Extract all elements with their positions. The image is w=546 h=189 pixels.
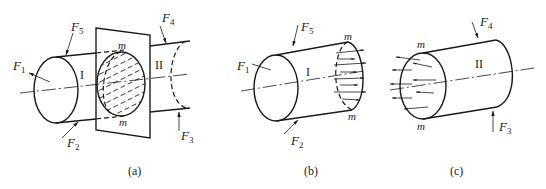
label-f4: F4 (161, 10, 175, 27)
label-f3: F3 (180, 128, 194, 145)
label-f2: F2 (290, 133, 303, 150)
force-arrow-f5 (293, 25, 298, 46)
panel-b: F1 F5 F2 m m I (b) (236, 19, 366, 178)
force-arrow-f2 (284, 120, 298, 134)
caption-b: (b) (304, 164, 318, 178)
cylinder-right-end (496, 40, 512, 107)
cylinder-left-end (254, 55, 298, 121)
label-f3: F3 (498, 119, 512, 136)
label-f5: F5 (70, 19, 84, 36)
force-arrow-f4 (160, 26, 166, 43)
section-surface (97, 52, 145, 116)
caption-a: (a) (128, 164, 141, 178)
section-label-top: m (417, 38, 425, 50)
internal-force-arrows (390, 57, 436, 109)
section-label-top: m (344, 30, 352, 42)
part-label-i: I (80, 68, 84, 82)
bar-axis (20, 74, 190, 93)
force-arrow-f1 (29, 73, 50, 82)
cylinder-left-end (34, 57, 78, 123)
section-label-top: m (118, 39, 126, 51)
label-f5: F5 (300, 19, 314, 36)
caption-c: (c) (450, 164, 463, 178)
section-label-bottom: m (348, 110, 356, 122)
bar-axis (241, 71, 364, 91)
section-label-bottom: m (417, 120, 425, 132)
section-label-bottom: m (119, 116, 127, 128)
force-arrow-f1 (252, 64, 271, 70)
part-label-ii: II (155, 58, 163, 72)
label-f1: F1 (236, 58, 249, 75)
label-f2: F2 (66, 135, 79, 152)
panel-c: F4 F3 m m II (c) (390, 14, 534, 178)
force-arrow-f4 (472, 22, 478, 38)
panel-a: F1 F5 F2 F4 F3 m m I II (a) (12, 10, 194, 178)
part-label-i: I (306, 65, 310, 79)
label-f1: F1 (12, 58, 25, 75)
force-arrow-f5 (66, 33, 73, 55)
section-method-figure: F1 F5 F2 F4 F3 m m I II (a) (0, 0, 546, 189)
label-f4: F4 (479, 14, 493, 31)
part-label-ii: II (475, 57, 483, 71)
